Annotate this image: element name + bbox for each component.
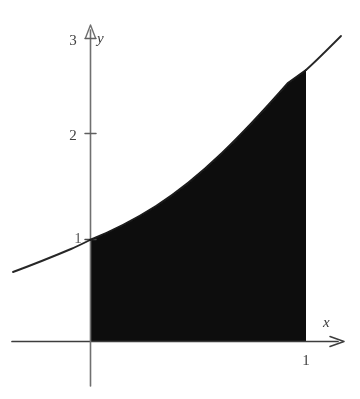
shaded-area-under-curve — [90, 70, 306, 341]
y-axis-label: y — [95, 30, 104, 46]
y-tick-label-2: 2 — [69, 127, 77, 143]
shaded-area-group — [90, 70, 306, 341]
exponential-area-plot: y x 3 2 1 1 — [0, 0, 360, 399]
figure-canvas: y x 3 2 1 1 — [0, 0, 360, 399]
x-tick-label-1: 1 — [302, 352, 310, 368]
x-axis-label: x — [322, 314, 330, 330]
exponential-curve-right-tail — [306, 36, 341, 70]
y-tick-label-1: 1 — [74, 230, 82, 246]
y-tick-label-3: 3 — [69, 32, 77, 48]
